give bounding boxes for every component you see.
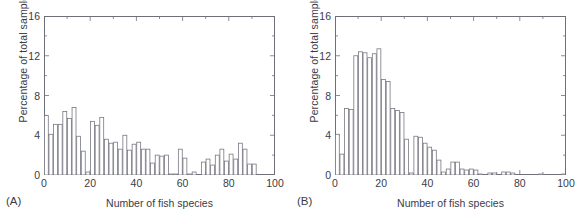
- histogram-bar: [414, 136, 418, 175]
- histogram-bar: [349, 109, 353, 175]
- histogram-bar: [446, 169, 450, 175]
- histogram-bar: [432, 150, 436, 175]
- histogram-bar: [405, 139, 409, 175]
- histogram-bar: [511, 173, 515, 175]
- histogram-bar: [506, 172, 510, 175]
- histogram-bar: [234, 159, 238, 175]
- histogram-bar: [386, 82, 390, 175]
- histogram-bar: [479, 174, 483, 175]
- histogram-bar: [206, 159, 210, 175]
- histogram-bar: [465, 170, 469, 175]
- histogram-bar: [437, 160, 441, 175]
- panel-b-xtick-80: 80: [514, 178, 526, 189]
- panel-b-bars: [335, 16, 566, 175]
- histogram-bar: [49, 134, 53, 175]
- histogram-bar: [248, 164, 252, 175]
- histogram-bar: [455, 162, 459, 175]
- histogram-bar: [91, 121, 95, 175]
- histogram-bar: [109, 143, 113, 175]
- panel-b-tag: (B): [297, 195, 312, 207]
- histogram-bar: [391, 108, 395, 175]
- histogram-bar: [488, 173, 492, 175]
- histogram-bar: [238, 143, 242, 175]
- histogram-bar: [428, 147, 432, 175]
- histogram-bar: [104, 139, 108, 175]
- histogram-bar: [164, 155, 168, 175]
- histogram-bar: [340, 154, 344, 175]
- panel-a-xtick-20: 20: [84, 178, 96, 189]
- histogram-bar: [183, 158, 187, 175]
- histogram-bar: [502, 172, 506, 175]
- figure-histograms: Percentage of total samples 16 12 8 4 0 …: [0, 0, 581, 221]
- panel-b-x-axis-label: Number of fish species: [335, 197, 566, 209]
- panel-a-xtick-80: 80: [223, 178, 235, 189]
- histogram-bar: [229, 154, 233, 175]
- histogram-bar: [474, 170, 478, 175]
- histogram-bar: [243, 149, 247, 175]
- histogram-bar: [409, 173, 413, 175]
- histogram-bar: [354, 56, 358, 175]
- histogram-bar: [469, 169, 473, 175]
- panel-b-plot-area: [335, 16, 566, 175]
- panel-a-xtick-60: 60: [177, 178, 189, 189]
- histogram-bar: [419, 137, 423, 175]
- histogram-bar: [382, 80, 386, 175]
- panel-b-xtick-0: 0: [332, 178, 338, 189]
- histogram-bar: [211, 165, 215, 175]
- histogram-bar: [335, 134, 339, 175]
- histogram-bar: [100, 117, 104, 175]
- panel-b-ytick-4: 4: [325, 130, 331, 140]
- panel-b: Percentage of total samples 16 12 8 4 0 …: [291, 0, 581, 221]
- histogram-bar: [54, 124, 58, 175]
- histogram-bar: [81, 151, 85, 175]
- histogram-bar: [562, 174, 566, 175]
- histogram-bar: [345, 108, 349, 175]
- histogram-bar: [67, 118, 71, 175]
- panel-b-x-tick-labels: 0 20 40 60 80 100: [335, 178, 566, 192]
- panel-b-xtick-20: 20: [375, 178, 387, 189]
- histogram-bar: [368, 58, 372, 175]
- histogram-bar: [155, 155, 159, 175]
- panel-b-ytick-0: 0: [325, 170, 331, 180]
- histogram-bar: [137, 142, 141, 175]
- panel-a-x-axis-label: Number of fish species: [44, 197, 275, 209]
- histogram-bar: [400, 112, 404, 175]
- histogram-bar: [58, 124, 62, 175]
- histogram-bar: [123, 135, 127, 175]
- histogram-bar: [151, 163, 155, 175]
- histogram-bar: [118, 149, 122, 175]
- histogram-bar: [492, 173, 496, 175]
- histogram-bar: [188, 174, 192, 175]
- histogram-bar: [132, 144, 136, 175]
- histogram-bar: [225, 161, 229, 175]
- histogram-bar: [86, 172, 90, 175]
- histogram-bar: [460, 169, 464, 175]
- histogram-bar: [442, 172, 446, 175]
- panel-a-ytick-4: 4: [34, 130, 40, 140]
- histogram-bar: [377, 49, 381, 175]
- panel-b-y-tick-labels: 16 12 8 4 0: [291, 16, 331, 175]
- histogram-bar: [220, 149, 224, 175]
- histogram-bar: [114, 142, 118, 175]
- panel-b-ytick-16: 16: [319, 11, 331, 21]
- panel-a-y-tick-labels: 16 12 8 4 0: [0, 16, 40, 175]
- panel-b-ytick-8: 8: [325, 91, 331, 101]
- histogram-bar: [539, 174, 543, 175]
- panel-b-xtick-40: 40: [422, 178, 434, 189]
- histogram-bar: [128, 150, 132, 175]
- panel-a-tag: (A): [6, 195, 21, 207]
- panel-a-ytick-8: 8: [34, 91, 40, 101]
- panel-a-bars: [44, 16, 275, 175]
- panel-a-ytick-12: 12: [28, 51, 40, 61]
- histogram-bar: [146, 149, 150, 175]
- histogram-bar: [192, 172, 196, 175]
- histogram-bar: [395, 110, 399, 175]
- histogram-bar: [72, 107, 76, 175]
- histogram-bar: [252, 164, 256, 175]
- histogram-bar: [141, 149, 145, 175]
- histogram-bar: [63, 111, 67, 175]
- histogram-bar: [451, 162, 455, 175]
- panel-a-xtick-0: 0: [41, 178, 47, 189]
- histogram-bar: [201, 162, 205, 175]
- histogram-bar: [160, 156, 164, 175]
